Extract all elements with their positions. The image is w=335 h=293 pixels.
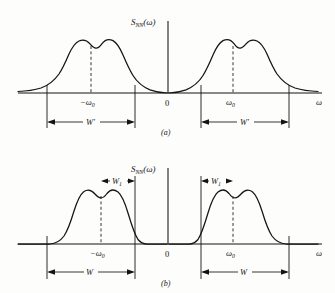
panel-a-left-curve [18, 40, 167, 93]
panel-a-pos-omega0-label: ω0 [226, 97, 235, 108]
panel-a-caption: (a) [161, 128, 171, 137]
panel-b-origin-label: 0 [165, 249, 169, 259]
panel-a-origin-label: 0 [165, 98, 169, 108]
panel-b-x-axis-label: ω [316, 248, 322, 258]
panel-a-width-marker-right: W′ [201, 116, 289, 127]
spectral-density-figure: W′ W′ −ω0 ω0 0 SNN(ω) ω (a) [0, 0, 335, 293]
panel-b-width-marker-left: W [47, 266, 135, 277]
panel-b-caption: (b) [161, 279, 171, 288]
figure-container: W′ W′ −ω0 ω0 0 SNN(ω) ω (a) [0, 0, 335, 293]
panel-a-group: W′ W′ −ω0 ω0 0 SNN(ω) ω (a) [18, 17, 322, 137]
panel-b-pos-omega0-label: ω0 [226, 248, 235, 259]
panel-a-neg-omega0-label: −ω0 [80, 97, 95, 108]
panel-a-width-label-right: W′ [240, 117, 249, 127]
panel-b-width-label-right: W [240, 267, 248, 277]
panel-b-y-axis-label: SNN(ω) [131, 164, 156, 175]
panel-b-inner-width-marker-right: W1 [201, 175, 233, 187]
panel-b-neg-omega0-label: −ω0 [90, 248, 105, 259]
panel-a-right-curve [169, 40, 318, 93]
panel-a-width-label-left: W′ [86, 117, 95, 127]
panel-b-group: W1 W1 W [18, 164, 322, 288]
panel-b-width-label-left: W [86, 267, 94, 277]
panel-a-y-axis-label: SNN(ω) [131, 17, 156, 28]
panel-b-left-curve [18, 190, 167, 244]
panel-b-inner-width-marker-left: W1 [101, 175, 135, 187]
panel-a-x-axis-label: ω [316, 97, 322, 107]
panel-b-right-curve [169, 190, 318, 244]
panel-a-width-marker-left: W′ [47, 116, 135, 127]
panel-b-width-marker-right: W [201, 266, 289, 277]
